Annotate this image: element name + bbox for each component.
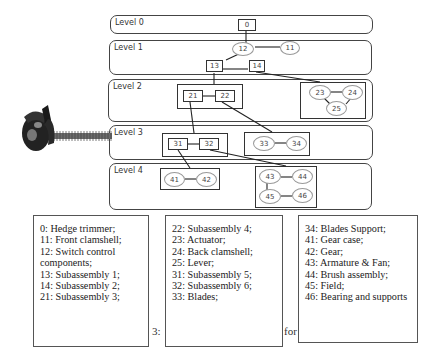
legend-item: 0: Hedge trimmer; [40,223,148,234]
node-25: 25 [326,101,347,116]
node-21: 21 [183,90,203,102]
node-24: 24 [342,85,363,100]
legend-item: 31: Subassembly 5; [172,269,282,280]
level-label: Level 0 [115,18,144,27]
level-4-band: Level 4 [109,163,372,210]
level-label: Level 3 [114,128,143,137]
legend-item: 45: Field; [305,280,417,291]
node-13: 13 [206,60,223,72]
node-23: 23 [309,85,331,100]
level-label: Level 1 [114,43,143,52]
legend-item: components; [40,257,148,268]
legend-item: 13: Subassembly 1; [40,269,148,280]
node-0: 0 [238,19,256,31]
node-11: 11 [280,41,300,55]
legend-item: 25: Lever; [172,257,282,268]
node-14: 14 [249,60,265,72]
level-3-band: Level 3 [109,125,373,160]
caption-fragment-right: for [284,325,297,337]
node-42: 42 [196,172,217,187]
node-41: 41 [164,172,185,187]
legend-item: 42: Gear; [305,246,417,257]
legend-column-3: 34: Blades Support; 41: Gear case; 42: G… [298,215,418,343]
legend-item: 11: Front clamshell; [40,234,148,245]
level-label: Level 2 [113,82,142,91]
node-33: 33 [253,136,275,151]
legend-column-2: 22: Subassembly 4; 23: Actuator; 24: Bac… [165,215,283,347]
legend-item: 23: Actuator; [172,234,282,245]
node-45: 45 [259,189,281,204]
hedge-trimmer-image [14,103,114,163]
node-43: 43 [259,169,281,184]
legend-item: 33: Blades; [172,291,282,302]
legend-item: 44: Brush assembly; [305,269,417,280]
legend-item: 41: Gear case; [305,234,417,245]
node-34: 34 [286,136,307,151]
node-44: 44 [292,169,313,184]
node-46: 46 [292,188,313,203]
caption-fragment-left: 3: [152,325,161,337]
legend-item: 21: Subassembly 3; [40,291,148,302]
legend-item: 34: Blades Support; [305,223,417,234]
legend-item: 14: Subassembly 2; [40,280,148,291]
legend-item: 43: Armature & Fan; [305,257,417,268]
legend-item: 46: Bearing and supports [305,291,417,302]
legend-column-1: 0: Hedge trimmer; 11: Front clamshell; 1… [33,215,149,347]
level-label: Level 4 [114,166,143,175]
node-22: 22 [215,90,235,102]
node-12: 12 [232,42,254,56]
legend-item: 22: Subassembly 4; [172,223,282,234]
node-31: 31 [168,138,188,150]
node-32: 32 [199,138,219,150]
legend-item: 32: Subassembly 6; [172,280,282,291]
legend-item: 24: Back clamshell; [172,246,282,257]
legend-item: 12: Switch control [40,246,148,257]
